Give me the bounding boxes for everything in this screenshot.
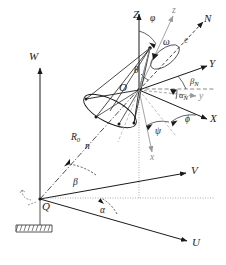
cone-rim-node-a	[85, 98, 88, 101]
axis-label-U: U	[192, 237, 200, 248]
axis-label-X: X	[210, 113, 217, 124]
angle-arc-beta-N	[178, 76, 186, 89]
origin-label-Q: Q	[42, 201, 50, 212]
cone-rim-node-b	[95, 116, 98, 119]
angle-arc-phi	[171, 115, 196, 122]
axis-label-Z: Z	[133, 9, 139, 20]
cone-rim-node-c	[118, 123, 121, 126]
angle-label-phi: ϕ	[185, 115, 190, 125]
angle-label-varphi: φ	[150, 14, 155, 24]
axis-label-W: W	[29, 51, 38, 62]
range-vector-label-subscript: 0	[77, 136, 80, 143]
angle-label-theta: θ	[134, 66, 139, 76]
range-vector-arrowhead	[64, 159, 70, 167]
angle-label-beta-N: βN	[190, 77, 199, 86]
axis-label-x-body: x	[150, 153, 154, 163]
range-vector-label-R0: R0	[71, 133, 80, 143]
origin-label-O: O	[119, 82, 127, 93]
axis-U	[40, 199, 187, 241]
axis-V	[40, 173, 186, 199]
cone-rim-node-d	[133, 122, 136, 125]
axis-label-y-body: y	[199, 92, 203, 102]
diagram-vector-graphics	[0, 0, 226, 265]
range-vector-label-base: R	[71, 132, 77, 142]
angle-label-beta-N-subscript: N	[194, 80, 198, 87]
angle-ellipse-omega-arrowhead	[152, 53, 159, 60]
angle-arc-varphi	[139, 31, 156, 44]
angle-label-alpha-N-subscript: N	[183, 94, 187, 101]
axis-label-z-body: z	[172, 6, 176, 16]
angle-arc-beta	[69, 164, 96, 175]
angle-label-alpha: α	[100, 206, 105, 216]
axis-label-N: N	[204, 13, 211, 24]
axis-label-V: V	[191, 165, 198, 176]
angle-label-psi: ψ	[155, 127, 161, 137]
angle-label-alpha-N: αN	[179, 91, 188, 100]
axis-x-body	[139, 90, 152, 152]
boresight-unit-vector-label-e: e	[184, 36, 188, 46]
range-unit-vector-label-n: n	[85, 142, 90, 152]
angle-label-beta: β	[73, 178, 78, 188]
angle-label-omega: ω	[163, 38, 170, 48]
diagram-canvas: W V U Q β α R0 n Z Y X O z y x N e φ ω θ…	[0, 0, 226, 265]
angle-arc-alpha-N	[176, 90, 177, 99]
axis-label-Y: Y	[209, 58, 215, 69]
